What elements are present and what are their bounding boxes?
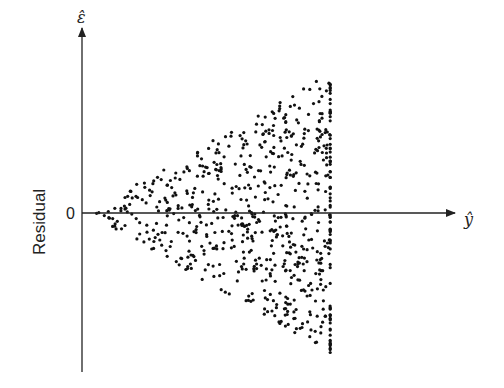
data-point [250, 235, 253, 238]
data-point [314, 330, 317, 333]
data-point [287, 323, 290, 326]
data-point [286, 151, 289, 154]
data-point [329, 204, 332, 207]
data-point [290, 159, 293, 162]
data-point [245, 268, 248, 271]
data-point [329, 98, 332, 101]
data-point [313, 209, 316, 212]
data-point [178, 263, 181, 266]
data-point [281, 154, 284, 157]
data-point [138, 221, 141, 224]
data-point [255, 262, 258, 265]
data-point [329, 238, 332, 241]
data-point [322, 158, 325, 161]
data-point [290, 232, 293, 235]
data-point [229, 135, 232, 138]
data-point [126, 195, 129, 198]
data-point [285, 224, 288, 227]
data-point [305, 260, 308, 263]
data-point [210, 222, 213, 225]
data-point [288, 240, 291, 243]
data-point [307, 284, 310, 287]
data-point [240, 216, 243, 219]
data-point [246, 230, 249, 233]
data-point [171, 194, 174, 197]
data-point [277, 193, 280, 196]
data-point [158, 238, 161, 241]
data-point [157, 209, 160, 212]
data-point [266, 197, 269, 200]
data-point [316, 250, 319, 253]
data-point [253, 265, 256, 268]
data-point [285, 205, 288, 208]
data-point [265, 278, 268, 281]
data-point [248, 165, 251, 168]
data-point [315, 182, 318, 185]
data-point [264, 130, 267, 133]
data-point [190, 205, 193, 208]
data-point [318, 130, 321, 133]
data-point [274, 117, 277, 120]
data-point [329, 119, 332, 122]
data-point [204, 268, 207, 271]
data-point [265, 258, 268, 261]
data-point [327, 246, 330, 249]
data-point [272, 230, 275, 233]
data-point [284, 113, 287, 116]
data-point [319, 283, 322, 286]
data-point [131, 196, 134, 199]
data-point [311, 246, 314, 249]
data-point [266, 310, 269, 313]
data-point [289, 105, 292, 108]
data-point [289, 269, 292, 272]
data-point [329, 163, 332, 166]
data-point [175, 260, 178, 263]
data-point [203, 253, 206, 256]
data-point [192, 191, 195, 194]
data-point [329, 199, 332, 202]
data-point [152, 240, 155, 243]
data-point [273, 184, 276, 187]
data-point [272, 112, 275, 115]
data-point [151, 182, 154, 185]
data-point [155, 205, 158, 208]
data-point [298, 279, 301, 282]
data-point [315, 80, 318, 83]
data-point [253, 175, 256, 178]
data-point [243, 163, 246, 166]
data-point [277, 155, 280, 158]
data-point [249, 154, 252, 157]
data-point [187, 250, 190, 253]
data-point [263, 198, 266, 201]
data-point [316, 287, 319, 290]
data-point [285, 136, 288, 139]
data-point [329, 92, 332, 95]
data-point [207, 207, 210, 210]
data-point [284, 301, 287, 304]
data-point [329, 192, 332, 195]
data-point [303, 164, 306, 167]
data-point [103, 214, 106, 217]
data-point [236, 279, 239, 282]
data-point [329, 334, 332, 337]
data-point [207, 203, 210, 206]
data-point [207, 263, 210, 266]
data-point [228, 292, 231, 295]
data-point [222, 241, 225, 244]
data-point [155, 222, 158, 225]
data-point [279, 136, 282, 139]
data-point [272, 252, 275, 255]
data-point [182, 216, 185, 219]
data-point [201, 190, 204, 193]
data-point [240, 265, 243, 268]
data-point [238, 174, 241, 177]
data-point [323, 239, 326, 242]
data-point [326, 143, 329, 146]
data-point [196, 151, 199, 154]
data-point [326, 241, 329, 244]
data-point [309, 294, 312, 297]
data-point [224, 208, 227, 211]
data-point [270, 309, 273, 312]
data-point [164, 231, 167, 234]
data-point [169, 179, 172, 182]
